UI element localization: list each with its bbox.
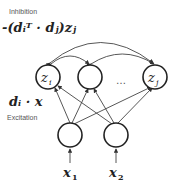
- arc-middle-zj: [91, 54, 154, 64]
- svg-text:x: x: [62, 165, 71, 180]
- input-label-x1: x 1: [62, 165, 78, 181]
- input-arrows: [70, 149, 116, 163]
- node-input-2: [104, 123, 128, 147]
- svg-text:x: x: [108, 165, 117, 180]
- network-diagram: z i … z j x 1 x 2: [0, 0, 187, 181]
- svg-text:1: 1: [72, 172, 78, 181]
- arc-zi-zj: [50, 43, 153, 64]
- node-input-1: [58, 123, 82, 147]
- ellipsis: …: [116, 75, 126, 86]
- svg-text:i: i: [49, 78, 52, 87]
- input-label-x2: x 2: [108, 165, 124, 181]
- svg-text:2: 2: [118, 172, 124, 181]
- svg-text:z: z: [40, 70, 48, 85]
- arc-zi-middle: [51, 56, 89, 64]
- node-z-j: z j: [143, 65, 167, 89]
- svg-text:z: z: [147, 70, 155, 85]
- node-middle: [78, 65, 102, 89]
- excitation-connections: [55, 86, 152, 124]
- node-z-i: z i: [36, 65, 60, 89]
- inhibition-connections: [50, 43, 154, 65]
